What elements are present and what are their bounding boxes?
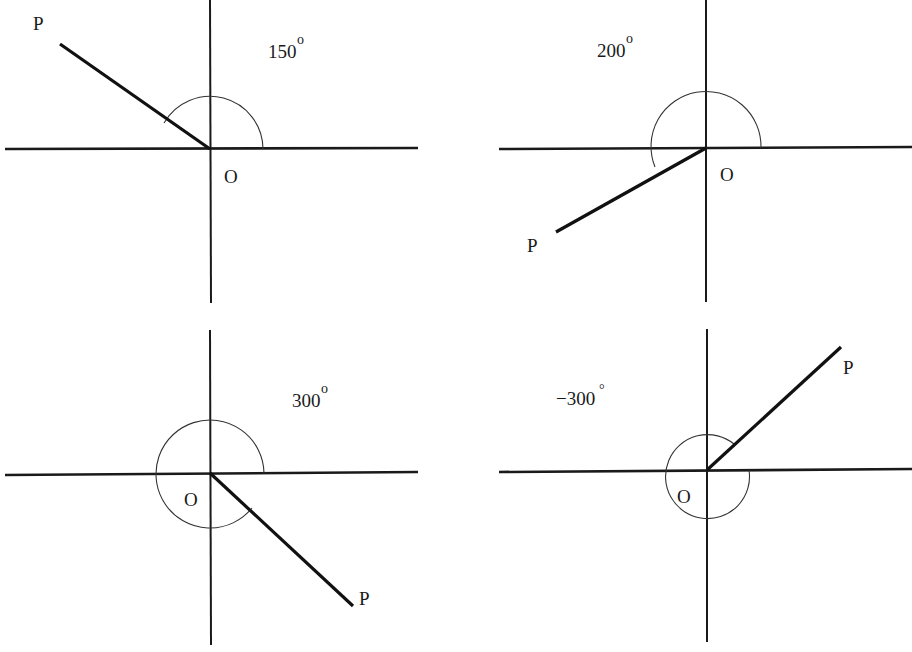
origin-label: O: [224, 166, 238, 187]
y-axis: [210, 330, 211, 645]
angles-figure: P O 150 o P O 200 o P O 300 o P O −300 °: [0, 0, 912, 652]
y-axis: [210, 0, 211, 303]
point-label: P: [359, 588, 370, 609]
degree-symbol: o: [626, 31, 633, 46]
degree-symbol: o: [297, 32, 304, 47]
x-axis: [5, 148, 418, 149]
degree-symbol: °: [599, 382, 605, 397]
panel-angle-300: P O 300 o: [5, 330, 418, 645]
panel-angle-200: P O 200 o: [499, 0, 912, 302]
angle-label: 200: [597, 40, 626, 61]
angle-arc: [164, 96, 263, 149]
angle-label: 150: [268, 41, 297, 62]
x-axis: [499, 469, 912, 472]
terminal-ray-op: [707, 347, 841, 470]
panel-angle-minus-300: P O −300 °: [499, 329, 912, 642]
terminal-ray-op: [60, 44, 210, 149]
point-label: P: [527, 235, 538, 256]
terminal-ray-op: [210, 473, 353, 606]
panel-angle-150: P O 150 o: [5, 0, 418, 303]
origin-label: O: [677, 486, 691, 507]
origin-label: O: [184, 489, 198, 510]
point-label: P: [843, 357, 854, 378]
terminal-ray-op: [556, 148, 706, 232]
angle-label: −300: [556, 388, 595, 409]
origin-label: O: [720, 164, 734, 185]
degree-symbol: o: [321, 381, 328, 396]
angle-label: 300: [292, 390, 321, 411]
point-label: P: [33, 13, 44, 34]
